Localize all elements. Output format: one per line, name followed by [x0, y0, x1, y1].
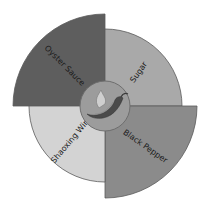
- hub-circle: [80, 81, 130, 131]
- ingredient-wheel-diagram: Oyster SauceSugarBlack PepperShaoxing Wi…: [0, 0, 211, 212]
- hub-background: [80, 81, 130, 131]
